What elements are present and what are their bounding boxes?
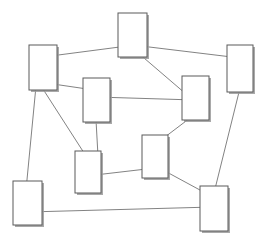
node-box[interactable]	[118, 13, 147, 57]
diagram-node[interactable]	[227, 45, 255, 94]
node-box[interactable]	[83, 78, 110, 122]
diagram-node[interactable]	[142, 135, 170, 180]
diagram-node[interactable]	[118, 13, 149, 59]
diagram-node[interactable]	[182, 76, 211, 122]
diagram-node[interactable]	[29, 45, 59, 92]
node-link-diagram	[0, 0, 269, 244]
diagram-edge	[28, 207, 213, 212]
diagram-svg	[0, 0, 269, 244]
diagram-edge	[141, 46, 240, 58]
diagram-node[interactable]	[83, 78, 112, 124]
nodes-layer	[13, 13, 255, 233]
node-box[interactable]	[227, 45, 253, 92]
diagram-node[interactable]	[75, 151, 103, 195]
diagram-node[interactable]	[13, 181, 44, 227]
diagram-node[interactable]	[200, 186, 230, 233]
node-box[interactable]	[142, 135, 168, 178]
node-box[interactable]	[182, 76, 209, 120]
diagram-edge	[213, 88, 240, 197]
node-box[interactable]	[13, 181, 42, 225]
node-box[interactable]	[75, 151, 101, 193]
node-box[interactable]	[200, 186, 228, 231]
diagram-edge	[41, 86, 86, 156]
node-box[interactable]	[29, 45, 57, 90]
diagram-edge	[26, 86, 36, 190]
